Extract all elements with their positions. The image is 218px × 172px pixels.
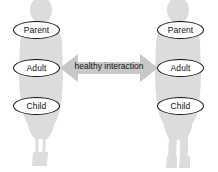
diagram-canvas: healthy interaction Parent Adult Child P… — [0, 0, 218, 172]
ego-states-layer: Parent Adult Child Parent Adult Child — [0, 0, 218, 172]
ego-state-right-child[interactable]: Child — [157, 97, 204, 115]
ego-state-left-parent[interactable]: Parent — [13, 21, 60, 39]
interaction-label: healthy interaction — [69, 62, 149, 71]
ego-state-label: Adult — [27, 64, 47, 73]
ego-state-label: Child — [171, 102, 191, 111]
ego-state-label: Child — [27, 102, 47, 111]
ego-state-left-adult[interactable]: Adult — [13, 59, 60, 77]
ego-state-right-parent[interactable]: Parent — [157, 21, 204, 39]
ego-state-left-child[interactable]: Child — [13, 97, 60, 115]
ego-state-right-adult[interactable]: Adult — [157, 59, 204, 77]
ego-state-label: Parent — [24, 26, 50, 35]
ego-state-label: Adult — [171, 64, 191, 73]
ego-state-label: Parent — [168, 26, 194, 35]
